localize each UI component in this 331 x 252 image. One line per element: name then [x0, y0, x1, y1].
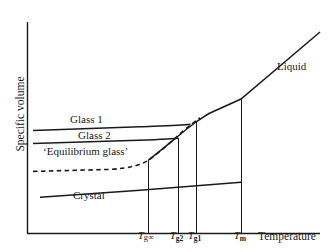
x-tick-label-tg2: Tg2 [170, 230, 183, 243]
x-tick-label-tm: Tm [234, 230, 246, 243]
x-tick-label-tg1: Tg1 [188, 230, 201, 243]
tick-sub-tg1: g1 [194, 234, 202, 243]
x-tick-label-tg-infinity: Tg∞ [138, 230, 154, 242]
curve-label-crystal: Crystal [73, 189, 105, 201]
supercooled-liquid-curve [148, 122, 196, 161]
curve-label-equilibrium-glass: ‘Equilibrium glass’ [43, 145, 128, 157]
glass1-curve [33, 124, 191, 130]
x-axis-title: Temperature [258, 230, 316, 242]
tick-sub-tg2: g2 [176, 234, 184, 243]
plot-canvas [0, 0, 331, 252]
specific-volume-temperature-diagram: Specific volume Temperature Liquid Glass… [0, 0, 331, 252]
liquid-curve [196, 32, 320, 122]
curve-label-liquid: Liquid [277, 60, 306, 72]
y-axis-title: Specific volume [14, 59, 26, 169]
curve-label-glass1: Glass 1 [70, 113, 103, 125]
crystal-curve [40, 182, 241, 197]
tick-sub-tg-infinity: g∞ [144, 232, 154, 242]
curve-label-glass2: Glass 2 [78, 129, 111, 141]
tick-sub-tm: m [240, 234, 246, 243]
